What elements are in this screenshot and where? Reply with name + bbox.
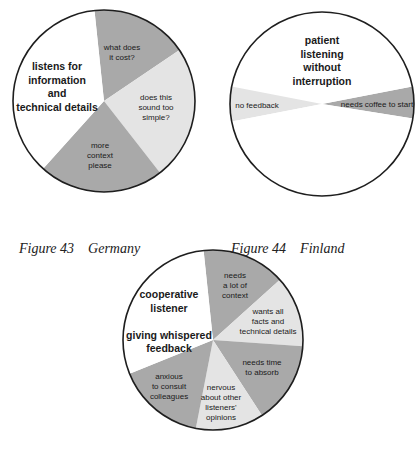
pie-slice <box>232 104 413 196</box>
slice-label: what doesit cost? <box>103 43 140 62</box>
caption-figure-43: Figure 43Germany <box>12 225 140 257</box>
slice-label: anxiousto consultcolleagues <box>150 372 188 401</box>
pie-chart-finland: needs coffee to startpatientlisteningwit… <box>230 12 414 196</box>
caption-figure-44: Figure 44Finland <box>224 225 344 257</box>
figure-country: Germany <box>88 241 140 256</box>
figure-number: Figure 44 <box>231 241 286 256</box>
slice-label: does thissound toosimple? <box>138 93 174 122</box>
slice-label: needs coffee to start <box>341 100 414 109</box>
slice-label: needs timeto absorb <box>242 358 282 377</box>
pie-chart-third-country: needsa lot ofcontextwants allfacts andte… <box>123 250 303 430</box>
figure-number: Figure 43 <box>19 241 74 256</box>
figure-country: Finland <box>300 241 344 256</box>
pie-chart-germany: what doesit cost?does thissound toosimpl… <box>13 10 195 192</box>
slice-label: needsa lot ofcontext <box>222 271 249 300</box>
slice-label: no feedback <box>235 101 280 110</box>
